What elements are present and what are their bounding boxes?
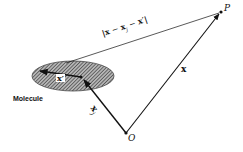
molecule-label: Molecule (13, 95, 43, 102)
point-p-label: P (224, 4, 230, 13)
point-o-label: O (128, 134, 135, 143)
point-p-dot (219, 10, 222, 13)
x-vector (126, 14, 219, 133)
molecule-center-dot (80, 76, 83, 79)
x-vector-label: x (181, 65, 186, 74)
x-prime-label: x′ (56, 74, 65, 82)
diagram-canvas: P O x xj x′ Molecule |x − xj − x′| (0, 0, 243, 152)
